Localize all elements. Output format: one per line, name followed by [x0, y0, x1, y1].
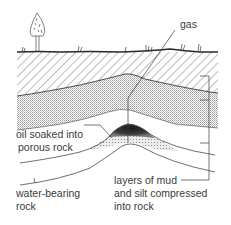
- layers-label-line2: and silt compressed: [114, 187, 207, 199]
- oil-label-line1: oil soaked into: [16, 128, 83, 140]
- oil-label-line2: porous rock: [18, 141, 73, 153]
- layers-label-line3: into rock: [114, 200, 154, 212]
- layers-label-line1: layers of mud: [114, 174, 177, 186]
- grass-tufts: [22, 44, 201, 52]
- water-bearing-label-line2: rock: [16, 200, 36, 212]
- gas-label: gas: [180, 18, 197, 30]
- tree-icon: [30, 13, 45, 51]
- water-bearing-label-line1: water-bearing: [16, 187, 80, 199]
- ground-surface: [17, 44, 218, 52]
